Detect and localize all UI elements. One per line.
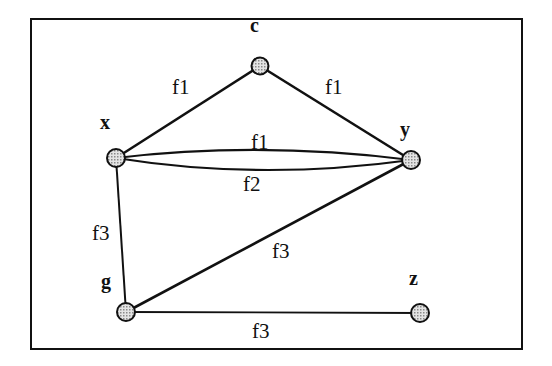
edge-g-z: [126, 312, 420, 313]
node-c: [252, 58, 269, 75]
edge-label-c-y: f1: [325, 75, 343, 99]
diagram-frame: [31, 19, 522, 349]
edge-label-g-z: f3: [252, 319, 270, 343]
node-z: [411, 304, 429, 322]
edge-y-g: [126, 160, 411, 312]
graph-diagram: c x y g z f1 f1 f1 f2 f3 f3 f3: [0, 0, 552, 366]
node-label-g: g: [101, 270, 111, 293]
edge-label-x-g: f3: [92, 221, 110, 245]
node-label-z: z: [409, 267, 418, 289]
node-g: [117, 303, 135, 321]
node-x: [107, 149, 125, 167]
edge-label-y-g: f3: [272, 239, 290, 263]
edge-label-x-y-f1: f1: [251, 130, 269, 154]
node-label-x: x: [100, 111, 110, 133]
edge-x-g: [116, 158, 126, 312]
node-y: [402, 151, 420, 169]
edge-label-x-c: f1: [172, 75, 190, 99]
node-label-c: c: [250, 14, 259, 36]
edge-x-y-f2: [116, 158, 411, 170]
edge-label-x-y-f2: f2: [243, 172, 261, 196]
node-label-y: y: [400, 118, 410, 141]
